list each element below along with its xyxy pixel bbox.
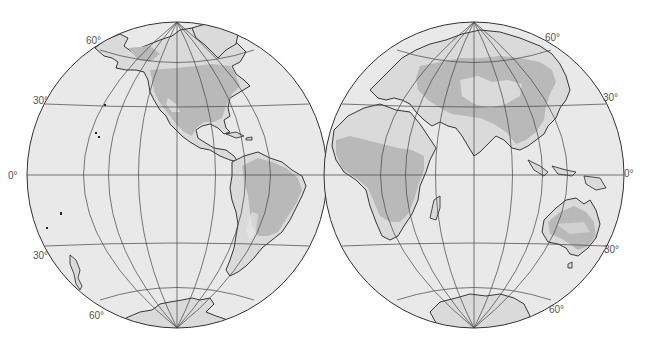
label-equator-east: 0° [624,168,634,179]
label-lat30s-west: 30° [33,250,48,261]
label-equator-west: 0° [8,170,18,181]
western-hemisphere: 60° 30° 0° 30° 60° [8,22,327,340]
world-map: 60° 30° 0° 30° 60° [0,0,649,346]
label-lat60s-east: 60° [549,304,564,315]
label-lat60n-west: 60° [86,35,101,46]
label-lat30s-east: 30° [604,244,619,255]
label-lat30n-west: 30° [33,95,48,106]
label-lat60n-east: 60° [545,32,560,43]
eastern-hemisphere: 60° 30° 0° 30° 60° [324,22,634,330]
label-lat30n-east: 30° [603,92,618,103]
label-lat60s-west: 60° [89,310,104,321]
